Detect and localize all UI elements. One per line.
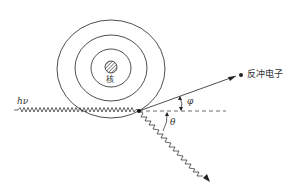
phi-label: φ: [187, 97, 193, 106]
nucleus-icon: [105, 61, 117, 73]
recoil-electron-dot: [239, 73, 243, 77]
incident-photon-wave: [14, 108, 139, 113]
arrow-icon: [165, 112, 169, 116]
arrow-icon: [179, 107, 183, 111]
theta-label: θ: [170, 118, 175, 127]
incident-photon-label: hν: [17, 97, 28, 106]
nucleus-label: 核: [106, 76, 114, 84]
recoil-electron-label: 反冲电子: [247, 70, 283, 79]
arrow-icon: [203, 174, 210, 182]
compton-diagram: [0, 0, 297, 189]
arrow-icon: [228, 76, 236, 81]
